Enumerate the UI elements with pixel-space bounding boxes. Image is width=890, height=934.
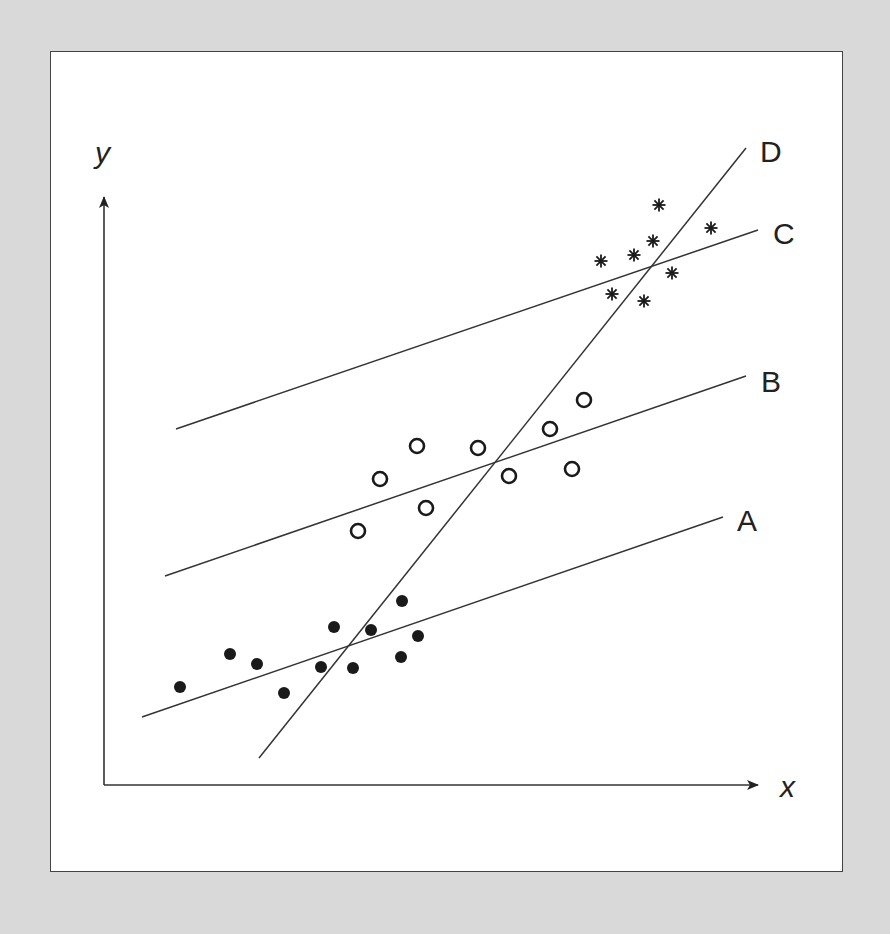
regression-lines	[142, 148, 758, 758]
open-circle	[565, 462, 579, 476]
filled-dot	[412, 630, 424, 642]
filled-dot	[174, 681, 186, 693]
line-d	[259, 148, 746, 758]
line-a-label: A	[737, 504, 757, 537]
y-axis-label: y	[93, 136, 112, 169]
asterisk-marker	[606, 288, 619, 301]
filled-dot	[251, 658, 263, 670]
asterisk-marker	[666, 267, 679, 280]
filled-dots-group	[174, 595, 424, 699]
line-c	[176, 230, 758, 429]
asterisk-marker	[647, 235, 660, 248]
open-circle	[373, 472, 387, 486]
open-circle	[543, 422, 557, 436]
asterisk-marker	[638, 295, 651, 308]
line-labels: A B C D	[737, 135, 795, 537]
open-circle	[419, 501, 433, 515]
asterisks-group	[595, 199, 718, 308]
line-c-label: C	[773, 217, 795, 250]
filled-dot	[315, 661, 327, 673]
asterisk-marker	[705, 222, 718, 235]
filled-dot	[328, 621, 340, 633]
line-b-label: B	[761, 365, 781, 398]
open-circle	[577, 393, 591, 407]
open-circle	[410, 439, 424, 453]
scatter-diagram: y x A B C D	[0, 0, 890, 934]
open-circle	[471, 441, 485, 455]
asterisk-marker	[595, 255, 608, 268]
line-a	[142, 517, 723, 717]
filled-dot	[224, 648, 236, 660]
open-circle	[351, 524, 365, 538]
filled-dot	[395, 651, 407, 663]
line-d-label: D	[760, 135, 782, 168]
asterisk-marker	[628, 249, 641, 262]
filled-dot	[278, 687, 290, 699]
open-circles-group	[351, 393, 591, 538]
filled-dot	[365, 624, 377, 636]
x-axis-label: x	[778, 770, 796, 803]
line-b	[165, 376, 746, 576]
filled-dot	[396, 595, 408, 607]
open-circle	[502, 469, 516, 483]
filled-dot	[347, 662, 359, 674]
axes: y x	[93, 136, 796, 803]
asterisk-marker	[653, 199, 666, 212]
